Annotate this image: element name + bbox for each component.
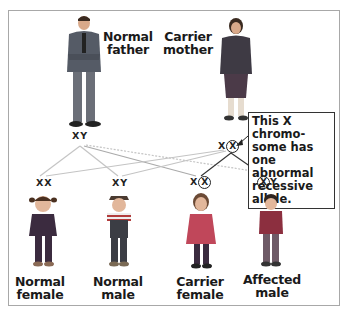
father-label: Normal father	[100, 30, 156, 56]
normal-x-chromosome: X	[218, 140, 226, 151]
normal-male-label: Normal male	[88, 275, 148, 301]
mother-label: Carrier mother	[160, 30, 216, 56]
abnormal-x-chromosome-circled: X	[198, 176, 211, 189]
abnormal-x-chromosome-circled: X	[257, 176, 270, 189]
line-mother-to-normal-female	[46, 150, 224, 176]
normal-female-label: Normal female	[10, 275, 70, 301]
abnormal-x-chromosome-circled: X	[226, 140, 239, 153]
father-genotype: XY	[72, 130, 88, 141]
normal-x-chromosome: X	[190, 176, 198, 187]
offspring-genotype-carrier-female: XX	[190, 176, 211, 189]
carrier-female-label: Carrier female	[170, 275, 230, 301]
affected-male-label: Affected male	[240, 273, 304, 299]
normal-female-child-figure	[26, 192, 60, 272]
mother-genotype: XX	[218, 140, 239, 153]
line-mother-to-normal-male	[122, 151, 226, 176]
offspring-genotype-normal-female: XX	[36, 177, 53, 188]
normal-male-child-figure	[101, 190, 137, 272]
carrier-female-child-figure	[183, 190, 219, 274]
mother-figure	[214, 16, 258, 124]
affected-male-child-figure	[254, 190, 288, 274]
y-chromosome: Y	[270, 176, 278, 187]
offspring-genotype-normal-male: XY	[112, 177, 128, 188]
line-father-to-affected-male	[86, 145, 272, 174]
offspring-genotype-affected-male: XY	[257, 176, 278, 189]
